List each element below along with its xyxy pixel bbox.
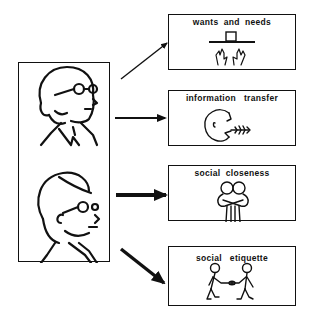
arrow-to-social-etiquette [121,249,164,283]
speaking-head-icon [169,91,297,147]
hugging-people-icon [169,166,297,222]
social-closeness-box: social closeness [168,165,296,221]
social-etiquette-box: social etiquette [168,246,296,306]
information-transfer-box: information transfer [168,90,296,146]
wants-and-needs-box: wants and needs [168,14,296,70]
hands-reaching-for-object-icon [169,15,297,71]
handshake-people-icon [169,247,297,307]
arrow-to-wants-and-needs [121,43,167,79]
